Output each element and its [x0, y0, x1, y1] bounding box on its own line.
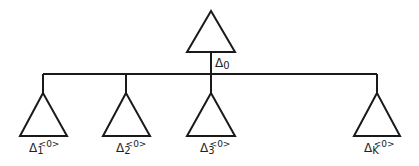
delta-symbol: Δ	[29, 141, 37, 155]
child-triangle-2	[103, 93, 150, 136]
child-triangle-k	[354, 93, 400, 136]
child-label-k: ΔK<0>	[364, 142, 395, 154]
child-triangle-3	[187, 93, 235, 136]
child-label-3: Δ3<0>	[200, 142, 230, 154]
delta-symbol: Δ	[200, 141, 208, 155]
delta-symbol: Δ	[215, 56, 223, 70]
child-triangle-1	[20, 93, 67, 136]
delta-symbol: Δ	[364, 141, 372, 155]
child-superscript: <0>	[374, 139, 395, 149]
child-superscript: <0>	[39, 139, 60, 149]
root-label: Δ0	[215, 57, 230, 69]
delta-symbol: Δ	[116, 141, 124, 155]
child-label-2: Δ2<0>	[116, 142, 146, 154]
root-subscript: 0	[223, 60, 229, 71]
child-label-1: Δ1<0>	[29, 142, 59, 154]
child-superscript: <0>	[126, 139, 147, 149]
child-superscript: <0>	[210, 139, 231, 149]
root-triangle	[187, 11, 235, 52]
